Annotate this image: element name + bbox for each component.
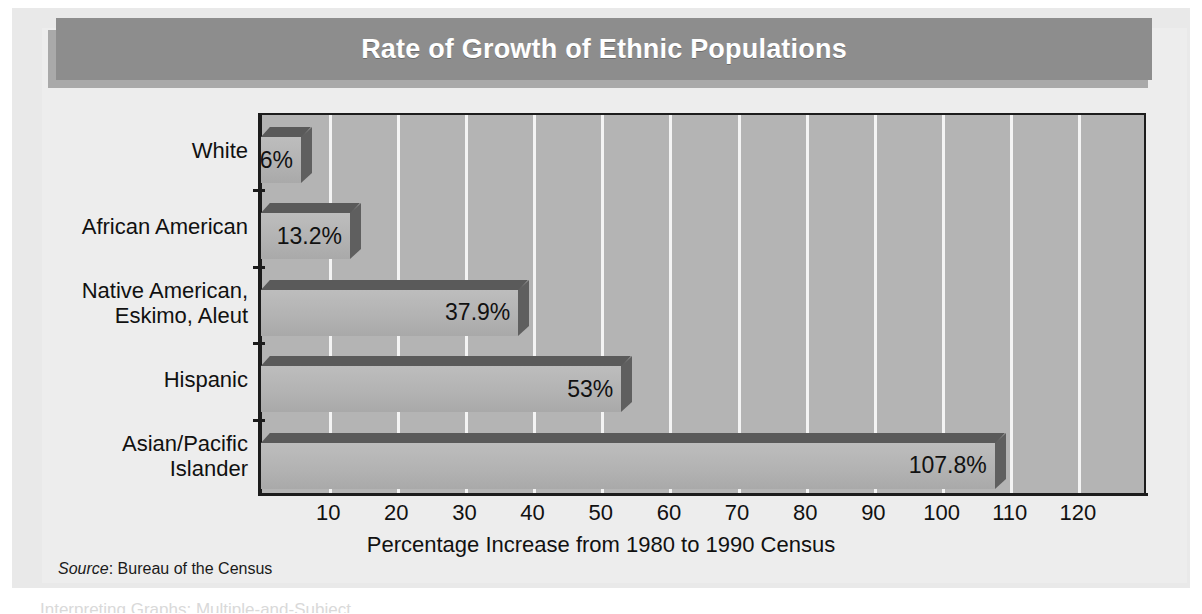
- bar-front-face: [260, 443, 995, 489]
- bar-side-face: [995, 433, 1006, 489]
- bar-value-label: 13.2%: [277, 213, 342, 259]
- bar-row: 53%: [260, 342, 1146, 418]
- y-axis-tick: [253, 266, 265, 269]
- category-axis-labels: WhiteAfrican AmericanNative American,Esk…: [0, 113, 252, 495]
- chart-page: Rate of Growth of Ethnic Populations 6%1…: [0, 0, 1202, 614]
- x-tick-label: 30: [452, 500, 476, 526]
- bar-row: 13.2%: [260, 189, 1146, 265]
- x-tick-label: 100: [923, 500, 960, 526]
- category-label: Hispanic: [0, 342, 252, 418]
- source-text: : Bureau of the Census: [109, 560, 273, 577]
- category-label-text: White: [192, 139, 248, 164]
- bar-value-label: 107.8%: [909, 443, 987, 489]
- y-axis-tick: [253, 342, 265, 345]
- x-tick-label: 110: [992, 500, 1027, 526]
- source-label: Source: [58, 560, 109, 577]
- bar-series: 6%13.2%37.9%53%107.8%: [260, 113, 1146, 495]
- x-tick-label: 10: [316, 500, 340, 526]
- category-label: African American: [0, 189, 252, 265]
- x-axis-title: Percentage Increase from 1980 to 1990 Ce…: [0, 532, 1202, 558]
- x-tick-label: 60: [657, 500, 681, 526]
- y-axis-tick: [253, 189, 265, 192]
- source-note: Source: Bureau of the Census: [58, 560, 272, 578]
- bar-value-label: 37.9%: [445, 290, 510, 336]
- x-tick-label: 20: [384, 500, 408, 526]
- y-axis-line: [258, 113, 261, 496]
- category-label: Asian/PacificIslander: [0, 419, 252, 495]
- bar[interactable]: 107.8%: [260, 433, 995, 489]
- bar-value-label: 6%: [260, 137, 293, 183]
- bar[interactable]: 6%: [260, 127, 301, 183]
- x-tick-label: 40: [520, 500, 544, 526]
- category-label-text: African American: [82, 215, 248, 240]
- category-label: Native American,Eskimo, Aleut: [0, 266, 252, 342]
- x-tick-label: 50: [589, 500, 613, 526]
- bar-side-face: [518, 280, 529, 336]
- bar-side-face: [301, 127, 312, 183]
- x-axis-line: [258, 493, 1148, 496]
- page-text-fragment: Interpreting Graphs: Multiple-and-Subjec…: [40, 600, 740, 613]
- x-axis-tick-labels: 102030405060708090100110120: [0, 500, 1202, 530]
- x-tick-label: 80: [793, 500, 817, 526]
- bar-row: 37.9%: [260, 266, 1146, 342]
- category-label-text: Asian/PacificIslander: [122, 432, 248, 481]
- bar[interactable]: 37.9%: [260, 280, 518, 336]
- y-axis-tick: [253, 419, 265, 422]
- title-banner: Rate of Growth of Ethnic Populations: [56, 18, 1152, 80]
- bar-side-face: [621, 356, 632, 412]
- category-label: White: [0, 113, 252, 189]
- chart-title: Rate of Growth of Ethnic Populations: [361, 34, 847, 65]
- bar[interactable]: 13.2%: [260, 203, 350, 259]
- x-tick-label: 120: [1059, 500, 1096, 526]
- bar-row: 6%: [260, 113, 1146, 189]
- bar[interactable]: 53%: [260, 356, 621, 412]
- bar-side-face: [350, 203, 361, 259]
- category-label-text: Hispanic: [164, 368, 248, 393]
- category-label-text: Native American,Eskimo, Aleut: [82, 279, 248, 328]
- bar-row: 107.8%: [260, 419, 1146, 495]
- x-tick-label: 90: [861, 500, 885, 526]
- x-tick-label: 70: [725, 500, 749, 526]
- bar-value-label: 53%: [567, 366, 613, 412]
